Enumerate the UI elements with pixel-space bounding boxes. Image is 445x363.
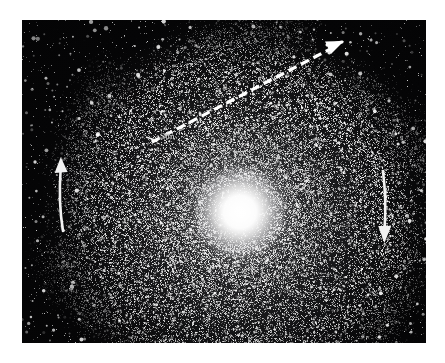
right-arrow-head — [378, 226, 391, 243]
galaxy-plate: Sun A B — [22, 20, 426, 343]
sun-leader-line — [146, 137, 155, 140]
left-arrow-shaft — [60, 170, 63, 231]
left-rotation-arrow — [55, 157, 68, 231]
figure-root: Sun A B — [0, 0, 445, 363]
sun-dot — [154, 139, 157, 142]
right-rotation-arrow — [378, 171, 391, 243]
dashed-sight-line-arrow — [152, 41, 344, 142]
left-arrow-head — [55, 157, 68, 173]
annotation-overlay — [22, 20, 426, 343]
right-arrow-shaft — [383, 171, 385, 228]
sight-line-shaft — [152, 47, 334, 142]
